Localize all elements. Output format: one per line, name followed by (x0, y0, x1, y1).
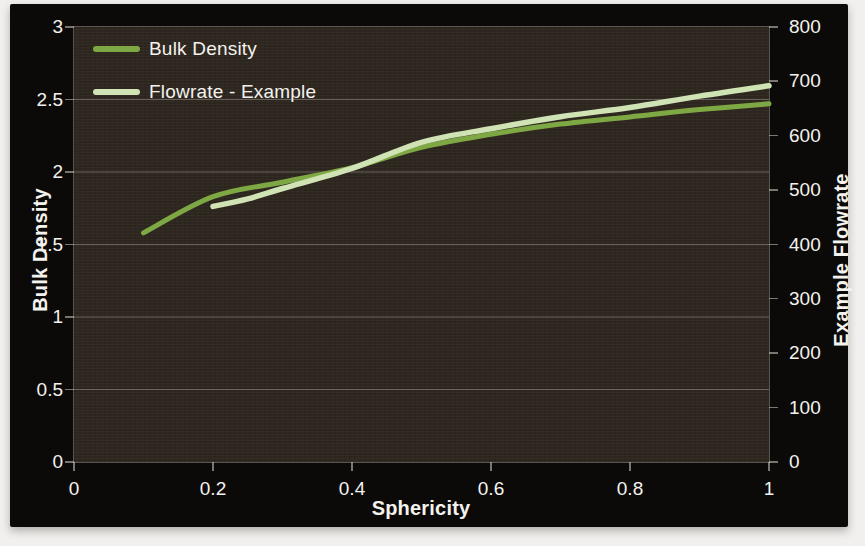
x-axis-tick-mark (351, 462, 353, 471)
x-axis-tick-mark (73, 462, 75, 471)
y-axis-right-tick-mark (769, 352, 778, 354)
legend-item-bulk-density: Bulk Density (93, 27, 316, 70)
x-axis-tick-label: 1 (734, 478, 804, 500)
x-axis-tick-mark (212, 462, 214, 471)
y-axis-right-tick-label: 600 (789, 125, 851, 147)
y-axis-left-tick-label: 0.5 (19, 379, 63, 401)
x-axis-tick-label: 0.4 (317, 478, 387, 500)
y-axis-left-tick-mark (65, 389, 74, 391)
flowrate-line-swatch (93, 89, 140, 95)
y-axis-left-tick-mark (65, 99, 74, 101)
y-axis-right-tick-label: 500 (789, 179, 851, 201)
y-axis-left-tick-label: 3 (19, 16, 63, 38)
y-axis-left-tick-label: 1 (19, 306, 63, 328)
y-axis-right-tick-mark (769, 298, 778, 300)
x-axis-tick-mark (768, 462, 770, 471)
legend: Bulk Density Flowrate - Example (93, 27, 316, 113)
y-axis-right-tick-label: 200 (789, 342, 851, 364)
x-axis-title: Sphericity (372, 497, 471, 520)
legend-label-flowrate: Flowrate - Example (149, 81, 316, 103)
series-line-bulk-density (144, 104, 770, 233)
y-axis-right-tick-label: 800 (789, 16, 851, 38)
y-axis-right-tick-mark (769, 135, 778, 137)
y-axis-right-tick-mark (769, 26, 778, 28)
y-axis-right-tick-mark (769, 407, 778, 409)
x-axis-tick-label: 0 (39, 478, 109, 500)
y-axis-left-tick-label: 0 (19, 451, 63, 473)
chart-card: Bulk Density Flowrate - Example Bulk Den… (10, 4, 848, 527)
y-axis-left-tick-label: 1.5 (19, 234, 63, 256)
x-axis-tick-mark (490, 462, 492, 471)
bulk-density-line-swatch (93, 46, 140, 52)
x-axis-tick-mark (629, 462, 631, 471)
y-axis-left-tick-label: 2.5 (19, 89, 63, 111)
plot-area: Bulk Density Flowrate - Example (74, 27, 769, 462)
x-axis-tick-label: 0.6 (456, 478, 526, 500)
y-axis-left-tick-mark (65, 26, 74, 28)
y-axis-left-tick-mark (65, 244, 74, 246)
y-axis-left-tick-mark (65, 316, 74, 318)
legend-label-bulk-density: Bulk Density (149, 38, 257, 60)
y-axis-right-tick-mark (769, 80, 778, 82)
y-axis-right-tick-label: 400 (789, 234, 851, 256)
y-axis-right-tick-label: 0 (789, 451, 851, 473)
legend-item-flowrate: Flowrate - Example (93, 70, 316, 113)
y-axis-right-tick-label: 700 (789, 70, 851, 92)
x-axis-tick-label: 0.2 (178, 478, 248, 500)
y-axis-right-tick-label: 100 (789, 397, 851, 419)
y-axis-right-tick-mark (769, 244, 778, 246)
y-axis-left-tick-label: 2 (19, 161, 63, 183)
x-axis-tick-label: 0.8 (595, 478, 665, 500)
y-axis-right-tick-label: 300 (789, 288, 851, 310)
y-axis-right-tick-mark (769, 461, 778, 463)
y-axis-right-tick-mark (769, 189, 778, 191)
y-axis-left-tick-mark (65, 171, 74, 173)
